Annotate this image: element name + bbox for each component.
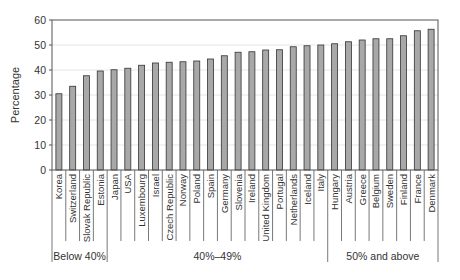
bar-spain <box>208 59 214 170</box>
group-label: Below 40% <box>53 250 106 262</box>
y-tick-label: 0 <box>40 164 46 176</box>
bar-switzerland <box>70 86 76 170</box>
gridlines <box>52 45 438 145</box>
group-labels: Below 40%40%–49%50% and above <box>53 250 419 262</box>
bar-iceland <box>304 46 310 170</box>
category-label: Denmark <box>426 174 437 213</box>
category-label: Japan <box>109 174 120 200</box>
bar-hungary <box>332 44 338 170</box>
category-label: United Kingdom <box>260 174 271 242</box>
category-label: Finland <box>398 174 409 205</box>
bar-greece <box>359 40 365 170</box>
bar-czech-republic <box>166 62 172 170</box>
category-label: Switzerland <box>67 174 78 223</box>
bar-austria <box>345 42 351 170</box>
category-label: France <box>412 174 423 204</box>
y-tick-label: 20 <box>34 114 46 126</box>
bar-slovak-republic <box>83 76 89 170</box>
y-tick-label: 50 <box>34 39 46 51</box>
bar-israel <box>152 63 158 170</box>
bar-italy <box>318 45 324 170</box>
category-label: Luxembourg <box>136 174 147 227</box>
group-label: 40%–49% <box>193 250 241 262</box>
bar-denmark <box>428 29 434 170</box>
y-axis-ticks: 0102030405060 <box>34 14 52 176</box>
bar-portugal <box>276 50 282 170</box>
category-label: Korea <box>53 173 64 199</box>
bar-poland <box>194 61 200 170</box>
category-label: Italy <box>315 174 326 192</box>
bar-finland <box>401 36 407 170</box>
category-label: Hungary <box>329 174 340 210</box>
category-label: USA <box>122 173 133 193</box>
category-label: Iceland <box>302 174 313 205</box>
category-label: Belgium <box>370 174 381 208</box>
bar-netherlands <box>290 47 296 170</box>
bar-belgium <box>373 39 379 170</box>
bar-norway <box>180 62 186 170</box>
category-label: Austria <box>343 173 354 203</box>
category-label: Sweden <box>384 174 395 208</box>
category-label: Greece <box>357 174 368 205</box>
bars <box>56 29 434 170</box>
bar-japan <box>111 70 117 170</box>
category-label: Estonia <box>95 173 106 205</box>
bar-chart: 0102030405060 Percentage KoreaSwitzerlan… <box>0 0 460 280</box>
bar-sweden <box>387 39 393 170</box>
group-label: 50% and above <box>346 250 419 262</box>
bar-france <box>414 31 420 170</box>
bar-estonia <box>97 71 103 170</box>
category-label: Ireland <box>246 174 257 203</box>
category-label: Slovak Republic <box>81 174 92 242</box>
y-tick-label: 10 <box>34 139 46 151</box>
category-labels: KoreaSwitzerlandSlovak RepublicEstoniaJa… <box>52 170 438 262</box>
category-label: Norway <box>177 174 188 206</box>
category-label: Israel <box>150 174 161 197</box>
bar-ireland <box>249 52 255 170</box>
bar-usa <box>125 68 131 170</box>
category-label: Slovenia <box>233 173 244 210</box>
bar-united-kingdom <box>263 50 269 170</box>
y-tick-label: 30 <box>34 89 46 101</box>
category-label: Czech Republic <box>164 174 175 241</box>
y-tick-label: 60 <box>34 14 46 26</box>
bar-korea <box>56 94 62 170</box>
category-label: Spain <box>205 174 216 198</box>
y-tick-label: 40 <box>34 64 46 76</box>
y-axis-label: Percentage <box>9 67 21 123</box>
category-label: Portugal <box>274 174 285 209</box>
category-label: Germany <box>219 174 230 213</box>
category-label: Poland <box>191 174 202 204</box>
bar-germany <box>221 56 227 170</box>
category-label: Netherlands <box>288 174 299 225</box>
bar-luxembourg <box>139 65 145 170</box>
bar-slovenia <box>235 52 241 170</box>
